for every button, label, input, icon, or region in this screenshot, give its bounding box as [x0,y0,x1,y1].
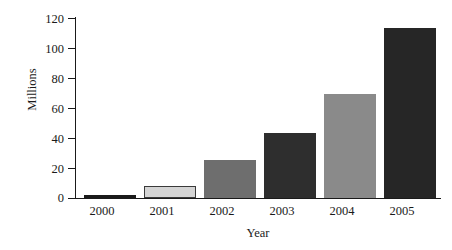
y-tick-label-40: 40 [22,133,64,146]
x-axis-line [75,198,441,199]
y-tick-label-60: 60 [22,103,64,116]
y-tick-label-0: 0 [22,192,64,205]
bar-2001 [144,186,196,198]
bar-2004 [324,94,376,198]
bar-2003 [264,133,316,198]
x-tick-label-2005: 2005 [366,205,438,218]
x-axis-title: Year [76,226,440,241]
y-tick-mark-120 [68,18,75,19]
bar-2002 [204,160,256,198]
y-tick-mark-0 [68,198,75,199]
y-tick-label-100: 100 [22,43,64,56]
bar-2000 [84,195,136,198]
y-tick-mark-60 [68,108,75,109]
y-tick-mark-40 [68,138,75,139]
y-tick-label-120: 120 [22,13,64,26]
y-tick-label-20: 20 [22,163,64,176]
y-tick-mark-80 [68,78,75,79]
y-tick-mark-20 [68,168,75,169]
bar-chart: Millions 120 100 80 60 40 20 0 2000 2001… [0,0,452,250]
y-tick-mark-100 [68,48,75,49]
y-tick-label-80: 80 [22,73,64,86]
plot-area [76,17,440,198]
bar-2005 [384,28,436,198]
